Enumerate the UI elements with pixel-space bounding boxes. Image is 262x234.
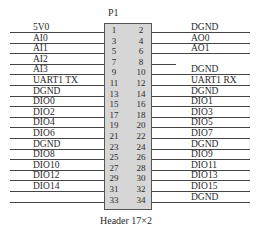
net-label: DGND [191, 22, 218, 32]
pin-number: 10 [134, 68, 148, 77]
wire-right [152, 202, 250, 203]
pin-number: 22 [134, 132, 148, 141]
net-label: AO1 [191, 43, 209, 53]
pin-number: 32 [134, 185, 148, 194]
pin-number: 21 [107, 132, 121, 141]
net-label: DIO2 [33, 107, 55, 117]
wire-left [10, 64, 104, 65]
net-label: DIO5 [191, 117, 213, 127]
wire-right [152, 53, 250, 54]
net-label: DGND [191, 192, 218, 202]
net-label: DIO6 [33, 128, 55, 138]
pin-number: 1 [107, 26, 121, 35]
pin-number: 25 [107, 153, 121, 162]
pin-number: 29 [107, 174, 121, 183]
net-label: 5V0 [33, 22, 49, 32]
pin-number: 34 [134, 196, 148, 205]
component-caption: Header 17×2 [100, 215, 152, 226]
pin-number: 27 [107, 164, 121, 173]
wire-left [10, 202, 104, 203]
wire-left [10, 117, 104, 118]
pin-number: 2 [134, 26, 148, 35]
net-label: DIO14 [33, 181, 59, 191]
net-label: DIO8 [33, 149, 55, 159]
net-label: DIO11 [191, 160, 217, 170]
pin-number: 33 [107, 196, 121, 205]
wire-left [10, 43, 104, 44]
wire-left [10, 106, 104, 107]
wire-left [10, 127, 104, 128]
pin-number: 5 [107, 47, 121, 56]
pin-number: 7 [107, 58, 121, 67]
wire-left [10, 32, 104, 33]
net-label: UART1 TX [33, 75, 78, 85]
net-label: DIO3 [191, 107, 213, 117]
pin-number: 11 [107, 79, 121, 88]
pin-number: 12 [134, 79, 148, 88]
net-label: DIO7 [191, 128, 213, 138]
wire-left [10, 191, 104, 192]
pin-number: 26 [134, 153, 148, 162]
net-label: DIO12 [33, 170, 59, 180]
net-label: DIO1 [191, 96, 213, 106]
pin-number: 17 [107, 111, 121, 120]
pin-number: 9 [107, 68, 121, 77]
pin-number: 3 [107, 37, 121, 46]
wire-left [10, 96, 104, 97]
component-reference: P1 [108, 7, 119, 18]
net-label: DGND [33, 86, 60, 96]
pin-number: 20 [134, 121, 148, 130]
pin-number: 16 [134, 100, 148, 109]
pin-number: 6 [134, 47, 148, 56]
pin-number: 19 [107, 121, 121, 130]
net-label: DIO15 [191, 181, 217, 191]
net-label: AI2 [33, 54, 48, 64]
pin-number: 14 [134, 90, 148, 99]
wire-right [152, 64, 176, 65]
net-label: AI3 [33, 64, 48, 74]
net-label: DIO9 [191, 149, 213, 159]
pin-number: 28 [134, 164, 148, 173]
wire-left [10, 53, 104, 54]
net-label: AO0 [191, 33, 209, 43]
net-label: UART1 RX [191, 75, 237, 85]
net-label: AI1 [33, 43, 48, 53]
pin-number: 30 [134, 174, 148, 183]
net-label: DGND [191, 86, 218, 96]
net-label: DIO13 [191, 170, 217, 180]
net-label: DGND [191, 64, 218, 74]
pin-number: 23 [107, 143, 121, 152]
net-label: DIO0 [33, 96, 55, 106]
pin-number: 8 [134, 58, 148, 67]
pin-number: 31 [107, 185, 121, 194]
net-label: DIO4 [33, 117, 55, 127]
pin-number: 15 [107, 100, 121, 109]
pin-number: 18 [134, 111, 148, 120]
pin-number: 4 [134, 37, 148, 46]
net-label: DGND [33, 139, 60, 149]
net-label: DGND [191, 139, 218, 149]
net-label: DIO10 [33, 160, 59, 170]
pin-number: 24 [134, 143, 148, 152]
wire-left [10, 149, 104, 150]
pin-number: 13 [107, 90, 121, 99]
net-label: AI0 [33, 33, 48, 43]
